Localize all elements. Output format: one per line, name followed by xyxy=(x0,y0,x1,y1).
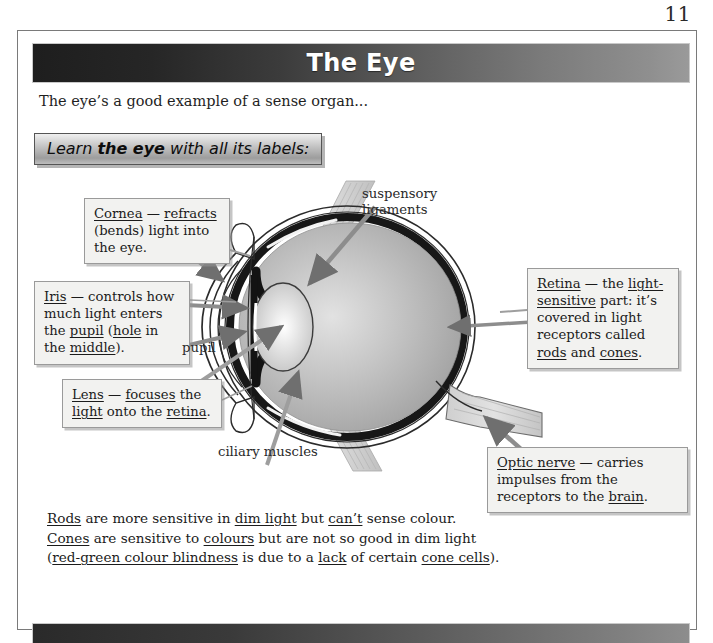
callout-optic-nerve-text: Optic nerve — carries impulses from the … xyxy=(497,455,648,504)
learn-bold: the eye xyxy=(97,139,165,158)
callout-cornea: Cornea — refracts (bends) light into the… xyxy=(84,198,230,264)
bottom-line-1: Rods are more sensitive in dim light but… xyxy=(47,509,499,529)
page-number: 11 xyxy=(665,2,691,26)
label-pupil: pupil xyxy=(182,340,216,356)
learn-prefix: Learn xyxy=(47,139,97,158)
title-banner: The Eye xyxy=(32,43,690,83)
bottom-line-2: Cones are sensitive to colours but are n… xyxy=(47,529,499,549)
optic-nerve xyxy=(436,381,542,437)
bottom-paragraph: Rods are more sensitive in dim light but… xyxy=(47,509,499,568)
label-ciliary-muscles: ciliary muscles xyxy=(218,444,318,460)
callout-lens-text: Lens — focuses the light onto the retina… xyxy=(72,387,211,419)
callout-retina: Retina — the light-sensitive part: it’s … xyxy=(527,268,679,369)
callout-retina-text: Retina — the light-sensitive part: it’s … xyxy=(537,276,663,360)
callout-optic-nerve: Optic nerve — carries impulses from the … xyxy=(487,447,688,513)
label-suspensory-line2: ligaments xyxy=(362,202,437,218)
learn-suffix: with all its labels: xyxy=(165,139,309,158)
bottom-line-3: (red-green colour blindness is due to a … xyxy=(47,548,499,568)
lens xyxy=(253,283,313,371)
callout-iris-text: Iris — controls how much light enters th… xyxy=(44,289,174,355)
next-section-banner xyxy=(32,623,690,643)
callout-cornea-text: Cornea — refracts (bends) light into the… xyxy=(94,206,217,255)
page-title: The Eye xyxy=(306,49,415,77)
label-suspensory-ligaments: suspensory ligaments xyxy=(362,186,437,218)
learn-instruction-box: Learn the eye with all its labels: xyxy=(34,133,322,165)
intro-text: The eye’s a good example of a sense orga… xyxy=(39,93,368,109)
callout-lens: Lens — focuses the light onto the retina… xyxy=(62,379,222,428)
callout-iris: Iris — controls how much light enters th… xyxy=(34,281,190,365)
label-suspensory-line1: suspensory xyxy=(362,186,437,202)
